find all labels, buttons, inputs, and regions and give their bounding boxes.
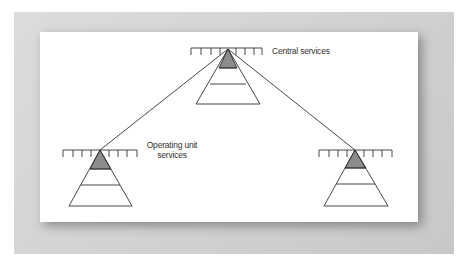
central-services-label: Central services: [272, 46, 330, 56]
connector-left: [100, 49, 228, 150]
connector-right: [228, 49, 355, 150]
operating-unit-pyramid-right: [319, 150, 392, 206]
operating-unit-label-line1: Operating unit: [141, 140, 203, 150]
operating-unit-services-label: Operating unit services: [141, 140, 203, 160]
hierarchy-diagram: [0, 0, 466, 261]
operating-unit-label-line2: services: [141, 150, 203, 160]
central-services-pyramid: [191, 48, 262, 104]
operating-unit-pyramid-left: [63, 150, 137, 206]
